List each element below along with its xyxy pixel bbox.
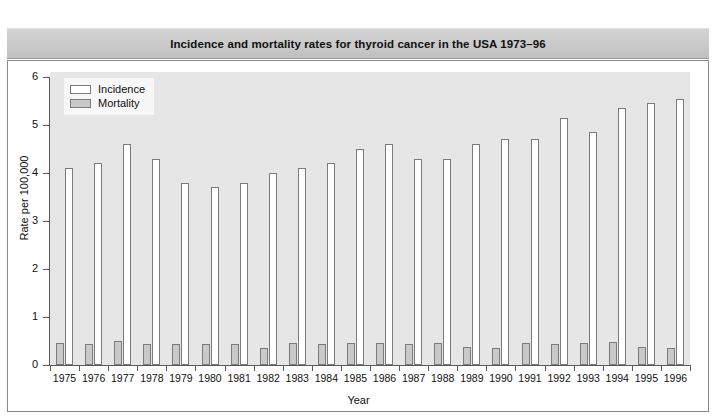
legend-label-mortality: Mortality [98, 96, 140, 111]
bar-mortality-1981 [231, 344, 239, 365]
x-tick-mark [225, 366, 226, 371]
bar-incidence-1990 [501, 139, 509, 365]
x-tick-mark [283, 366, 284, 371]
bar-mortality-1982 [260, 348, 268, 365]
y-tick-mark [43, 125, 49, 126]
bar-incidence-1989 [472, 144, 480, 365]
legend-label-incidence: Incidence [98, 82, 145, 97]
bar-incidence-1987 [414, 159, 422, 365]
x-tick-label-1996: 1996 [655, 372, 695, 384]
bar-incidence-1983 [298, 168, 306, 365]
x-tick-mark [79, 366, 80, 371]
x-tick-mark [50, 366, 51, 371]
bar-mortality-1994 [609, 342, 617, 365]
bar-mortality-1985 [347, 343, 355, 365]
x-tick-mark [341, 366, 342, 371]
legend-item-mortality: Mortality [70, 96, 145, 110]
bar-mortality-1989 [463, 347, 471, 365]
x-tick-mark [166, 366, 167, 371]
x-tick-mark [515, 366, 516, 371]
bar-mortality-1996 [667, 348, 675, 365]
y-axis-label: Rate per 100,000 [18, 128, 30, 268]
bar-incidence-1996 [676, 99, 684, 365]
y-tick-mark [43, 269, 49, 270]
bar-mortality-1990 [492, 348, 500, 365]
bar-incidence-1980 [211, 187, 219, 365]
bar-incidence-1975 [65, 168, 73, 365]
chart-legend: Incidence Mortality [64, 78, 154, 115]
bar-incidence-1979 [181, 183, 189, 365]
bar-incidence-1991 [531, 139, 539, 365]
x-tick-mark [195, 366, 196, 371]
bar-incidence-1982 [269, 173, 277, 365]
y-tick-mark [43, 317, 49, 318]
y-tick-label: 0 [0, 358, 38, 370]
chart-title: Incidence and mortality rates for thyroi… [170, 38, 546, 50]
y-tick-label: 6 [0, 70, 38, 82]
x-tick-mark [399, 366, 400, 371]
x-tick-mark [137, 366, 138, 371]
x-tick-mark [632, 366, 633, 371]
x-tick-mark [428, 366, 429, 371]
bar-mortality-1983 [289, 343, 297, 365]
bar-mortality-1984 [318, 344, 326, 365]
bar-mortality-1978 [143, 344, 151, 365]
bar-incidence-1977 [123, 144, 131, 365]
legend-swatch-incidence-icon [70, 85, 91, 94]
x-tick-mark [486, 366, 487, 371]
bar-incidence-1988 [443, 159, 451, 365]
x-tick-mark [370, 366, 371, 371]
y-tick-label: 1 [0, 310, 38, 322]
x-axis-label: Year [0, 394, 717, 406]
bar-incidence-1985 [356, 149, 364, 365]
x-tick-mark [603, 366, 604, 371]
bar-incidence-1995 [647, 103, 655, 365]
x-tick-mark [254, 366, 255, 371]
x-tick-mark [312, 366, 313, 371]
chart-title-bar: Incidence and mortality rates for thyroi… [7, 28, 709, 59]
bar-mortality-1992 [551, 344, 559, 365]
bar-mortality-1980 [202, 344, 210, 365]
x-tick-mark [661, 366, 662, 371]
bar-incidence-1978 [152, 159, 160, 365]
bar-mortality-1976 [85, 344, 93, 365]
bar-mortality-1975 [56, 343, 64, 365]
bar-mortality-1993 [580, 343, 588, 365]
x-tick-mark [457, 366, 458, 371]
plot-area [50, 77, 690, 365]
bar-mortality-1977 [114, 341, 122, 365]
legend-swatch-mortality-icon [70, 99, 91, 108]
bar-incidence-1981 [240, 183, 248, 365]
bar-incidence-1994 [618, 108, 626, 365]
x-tick-mark [574, 366, 575, 371]
bar-incidence-1992 [560, 118, 568, 365]
y-tick-mark [43, 365, 49, 366]
bar-mortality-1986 [376, 343, 384, 365]
bar-incidence-1993 [589, 132, 597, 365]
bar-incidence-1986 [385, 144, 393, 365]
bar-mortality-1995 [638, 347, 646, 365]
x-tick-mark [690, 366, 691, 371]
y-tick-mark [43, 173, 49, 174]
bar-mortality-1987 [405, 344, 413, 365]
x-tick-mark [545, 366, 546, 371]
bar-mortality-1991 [522, 343, 530, 365]
bar-incidence-1976 [94, 163, 102, 365]
legend-item-incidence: Incidence [70, 82, 145, 96]
bar-incidence-1984 [327, 163, 335, 365]
x-tick-mark [108, 366, 109, 371]
bar-mortality-1988 [434, 343, 442, 365]
bar-mortality-1979 [172, 344, 180, 365]
y-tick-mark [43, 221, 49, 222]
y-tick-mark [43, 77, 49, 78]
chart-figure: Incidence and mortality rates for thyroi… [0, 0, 717, 419]
